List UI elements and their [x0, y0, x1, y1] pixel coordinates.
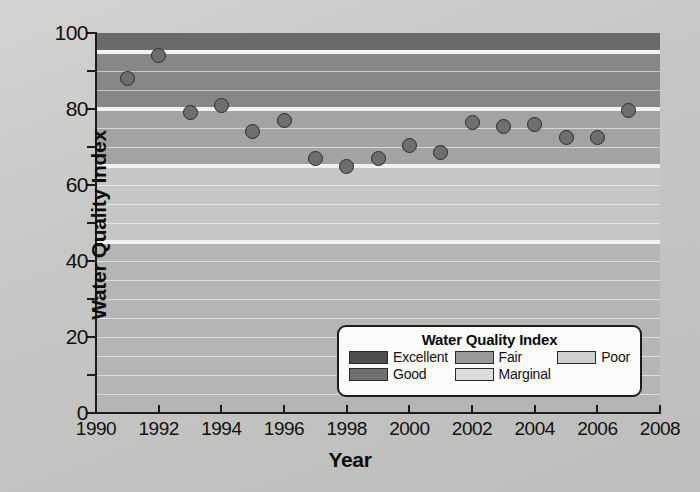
gridline — [96, 128, 660, 129]
x-axis-tick-label: 1998 — [327, 418, 367, 440]
x-axis-tick-label: 2000 — [389, 418, 429, 440]
gridline — [96, 318, 660, 319]
x-axis-tick — [471, 405, 473, 412]
band-separator — [96, 240, 660, 244]
x-axis-tick-label: 1990 — [76, 418, 116, 440]
y-axis-tick-label: 100 — [54, 21, 88, 45]
legend-swatch-marginal — [455, 368, 494, 381]
legend-label: Excellent — [393, 351, 448, 364]
legend-label: Poor — [601, 351, 630, 364]
data-point — [183, 105, 198, 120]
band-good — [96, 52, 660, 109]
legend-column: ExcellentGood — [349, 350, 448, 381]
x-axis-tick — [659, 405, 661, 412]
data-point — [120, 71, 135, 86]
legend-column: FairMarginal — [455, 350, 551, 381]
y-axis-tick — [87, 336, 95, 338]
legend-swatch-good — [349, 368, 388, 381]
x-axis-tick-label: 2002 — [452, 418, 492, 440]
legend: Water Quality Index ExcellentGoodFairMar… — [337, 325, 642, 397]
data-point — [308, 151, 323, 166]
gridline — [96, 71, 660, 72]
data-point — [371, 151, 386, 166]
data-point — [590, 130, 605, 145]
x-axis-tick-label: 1994 — [201, 418, 241, 440]
data-point — [559, 130, 574, 145]
y-axis-title-wrap: Water Quality Index — [12, 30, 42, 420]
chart-page: 020406080100 199019921994199619982000200… — [0, 0, 700, 492]
data-point — [496, 119, 511, 134]
x-axis-tick — [95, 405, 97, 412]
x-axis-tick — [346, 405, 348, 412]
x-axis-tick — [596, 405, 598, 412]
y-axis-tick — [87, 32, 95, 34]
x-axis-tick-label: 1996 — [264, 418, 304, 440]
x-axis-line — [95, 412, 661, 414]
data-point — [527, 117, 542, 132]
legend-item: Excellent — [349, 350, 448, 364]
legend-columns: ExcellentGoodFairMarginalPoor — [347, 350, 632, 381]
legend-item: Poor — [557, 350, 630, 364]
data-point — [214, 98, 229, 113]
y-axis-tick — [87, 374, 95, 376]
data-point — [339, 159, 354, 174]
y-axis-tick — [87, 70, 95, 72]
x-axis-tick — [408, 405, 410, 412]
data-point — [402, 138, 417, 153]
legend-column: Poor — [557, 350, 630, 381]
gridline — [96, 147, 660, 148]
x-axis-title: Year — [0, 448, 700, 472]
data-point — [277, 113, 292, 128]
y-axis-title: Water Quality Index — [87, 130, 111, 320]
data-point — [465, 115, 480, 130]
legend-item: Good — [349, 367, 448, 381]
y-axis-tick — [87, 108, 95, 110]
gridline — [96, 204, 660, 205]
gridline — [96, 185, 660, 186]
y-axis-tick-label: 80 — [66, 97, 88, 121]
y-axis-tick-label: 40 — [66, 249, 88, 273]
x-axis-tick — [158, 405, 160, 412]
gridline — [96, 223, 660, 224]
y-axis-tick — [87, 412, 95, 414]
x-axis-tick — [283, 405, 285, 412]
gridline — [96, 261, 660, 262]
legend-swatch-fair — [455, 351, 494, 364]
legend-item: Fair — [455, 350, 551, 364]
legend-label: Marginal — [499, 368, 551, 381]
x-axis-tick-label: 2004 — [515, 418, 555, 440]
legend-item: Marginal — [455, 367, 551, 381]
y-axis-tick-label: 60 — [66, 173, 88, 197]
legend-label: Fair — [499, 351, 522, 364]
gridline — [96, 280, 660, 281]
x-axis-tick-label: 2008 — [640, 418, 680, 440]
legend-swatch-excellent — [349, 351, 388, 364]
legend-label: Good — [393, 368, 426, 381]
band-separator — [96, 50, 660, 54]
gridline — [96, 299, 660, 300]
legend-title: Water Quality Index — [347, 331, 632, 348]
x-axis-tick — [220, 405, 222, 412]
x-axis-tick-label: 2006 — [577, 418, 617, 440]
x-axis-tick-label: 1992 — [139, 418, 179, 440]
band-separator — [96, 107, 660, 111]
legend-swatch-poor — [557, 351, 596, 364]
y-axis-tick-label: 20 — [66, 325, 88, 349]
gridline — [96, 90, 660, 91]
x-axis-tick — [534, 405, 536, 412]
